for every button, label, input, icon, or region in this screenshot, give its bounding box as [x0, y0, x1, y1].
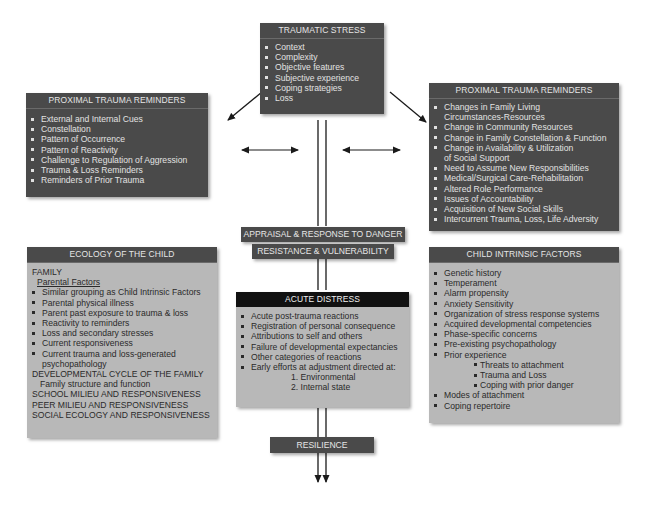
list-item: Prior experience	[429, 350, 619, 360]
list-item: Organization of stress response systems	[429, 309, 619, 319]
list-item: Acute post-trauma reactions	[236, 311, 409, 321]
list-item: Altered Role Performance	[429, 184, 619, 194]
list-item: Pattern of Occurrence	[26, 134, 208, 144]
proximal-reminders-right-title: PROXIMAL TRAUMA REMINDERS	[429, 83, 619, 99]
list-item: Genetic history	[429, 268, 619, 278]
resistance-banner: RESISTANCE & VULNERABILITY	[252, 244, 394, 259]
list-item: Current responsiveness	[27, 338, 217, 348]
resilience-banner: RESILIENCE	[270, 437, 374, 453]
list-item: Issues of Accountability	[429, 194, 619, 204]
list-item: Attributions to self and others	[236, 331, 409, 341]
list-item: Reactivity to reminders	[27, 318, 217, 328]
traumatic-stress-box: TRAUMATIC STRESS Context Complexity Obje…	[260, 23, 384, 114]
family-label: FAMILY	[32, 267, 217, 277]
child-intrinsic-title: CHILD INTRINSIC FACTORS	[429, 247, 619, 263]
numbered-item: 2. Internal state	[236, 382, 409, 392]
list-item: Change in Family Constellation & Functio…	[429, 133, 619, 143]
sub-list-item: Trauma and Loss	[429, 370, 619, 380]
list-item: Change in Availability & Utilization	[429, 143, 619, 153]
list-item: Registration of personal consequence	[236, 321, 409, 331]
list-item: Objective features	[260, 62, 384, 72]
traumatic-stress-list: Context Complexity Objective features Su…	[260, 39, 384, 103]
list-item: Alarm propensity	[429, 288, 619, 298]
list-item: Failure of developmental expectancies	[236, 342, 409, 352]
appraisal-banner: APPRAISAL & RESPONSE TO DANGER	[241, 227, 405, 242]
list-item: Coping repertoire	[429, 401, 619, 411]
prior-experience-sublist: Threats to attachment Trauma and Loss Co…	[429, 360, 619, 391]
list-item: Loss	[260, 93, 384, 103]
acute-distress-title: ACUTE DISTRESS	[236, 292, 409, 307]
list-item: Parent past exposure to trauma & loss	[27, 308, 217, 318]
list-item: Medical/Surgical Care-Rehabilitation	[429, 173, 619, 183]
ecology-of-child-box: ECOLOGY OF THE CHILD FAMILY Parental Fac…	[27, 247, 217, 438]
list-item: Acquisition of New Social Skills	[429, 204, 619, 214]
social-ecology-label: SOCIAL ECOLOGY AND RESPONSIVENESS	[32, 410, 217, 420]
list-item-continuation: of Social Support	[429, 153, 619, 163]
list-item: Change in Community Resources	[429, 122, 619, 132]
child-intrinsic-list: Genetic history Temperament Alarm propen…	[429, 263, 619, 360]
list-item: Changes in Family Living	[429, 102, 619, 112]
list-item: Constellation	[26, 124, 208, 134]
proximal-reminders-left-list: External and Internal Cues Constellation…	[26, 109, 208, 185]
traumatic-stress-title: TRAUMATIC STRESS	[260, 23, 384, 39]
list-item-continuation: Circumstances-Resources	[429, 112, 619, 122]
school-milieu-label: SCHOOL MILIEU AND RESPONSIVENESS	[32, 389, 217, 399]
ecology-title: ECOLOGY OF THE CHILD	[27, 247, 217, 263]
child-intrinsic-list-after: Modes of attachment Coping repertoire	[429, 390, 619, 410]
list-item: Phase-specific concerns	[429, 329, 619, 339]
list-item: Current trauma and loss-generated	[27, 349, 217, 359]
family-structure-label: Family structure and function	[32, 379, 217, 389]
list-item: Temperament	[429, 278, 619, 288]
list-item: Modes of attachment	[429, 390, 619, 400]
list-item: Coping strategies	[260, 83, 384, 93]
proximal-reminders-right-box: PROXIMAL TRAUMA REMINDERS Changes in Fam…	[429, 83, 619, 231]
list-item: Pattern of Reactivity	[26, 145, 208, 155]
list-item: Parental physical illness	[27, 298, 217, 308]
list-item: Intercurrent Trauma, Loss, Life Adversit…	[429, 214, 619, 224]
parental-factors-label: Parental Factors	[32, 277, 217, 287]
list-item: Anxiety Sensitivity	[429, 299, 619, 309]
list-item-continuation: psychopathology	[27, 359, 217, 369]
list-item: Subjective experience	[260, 73, 384, 83]
list-item: External and Internal Cues	[26, 114, 208, 124]
list-item: Early efforts at adjustment directed at:	[236, 362, 409, 372]
sub-list-item: Coping with prior danger	[429, 380, 619, 390]
proximal-reminders-right-list: Changes in Family Living Circumstances-R…	[429, 99, 619, 224]
adjustment-targets-list: 1. Environmental 2. Internal state	[236, 372, 409, 392]
peer-milieu-label: PEER MILIEU AND RESPONSIVENESS	[32, 400, 217, 410]
proximal-reminders-left-title: PROXIMAL TRAUMA REMINDERS	[26, 93, 208, 109]
parental-factors-list: Similar grouping as Child Intrinsic Fact…	[27, 287, 217, 369]
list-item: Context	[260, 42, 384, 52]
child-intrinsic-factors-box: CHILD INTRINSIC FACTORS Genetic history …	[429, 247, 619, 423]
developmental-cycle-label: DEVELOPMENTAL CYCLE OF THE FAMILY	[32, 369, 217, 379]
list-item: Acquired developmental competencies	[429, 319, 619, 329]
list-item: Trauma & Loss Reminders	[26, 165, 208, 175]
list-item: Pre-existing psychopathology	[429, 339, 619, 349]
acute-distress-list: Acute post-trauma reactions Registration…	[236, 307, 409, 372]
list-item: Need to Assume New Responsibilities	[429, 163, 619, 173]
numbered-item: 1. Environmental	[236, 372, 409, 382]
list-item: Loss and secondary stresses	[27, 328, 217, 338]
list-item: Other categories of reactions	[236, 352, 409, 362]
acute-distress-box: ACUTE DISTRESS Acute post-trauma reactio…	[236, 292, 409, 407]
list-item: Complexity	[260, 52, 384, 62]
list-item: Challenge to Regulation of Aggression	[26, 155, 208, 165]
sub-list-item: Threats to attachment	[429, 360, 619, 370]
proximal-reminders-left-box: PROXIMAL TRAUMA REMINDERS External and I…	[26, 93, 208, 197]
list-item: Reminders of Prior Trauma	[26, 175, 208, 185]
list-item: Similar grouping as Child Intrinsic Fact…	[27, 287, 217, 297]
